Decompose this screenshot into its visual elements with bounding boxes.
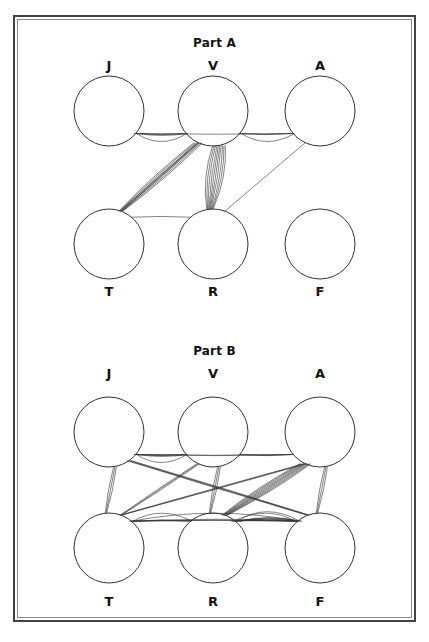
node-j-circle (74, 397, 144, 467)
node-r-circle (178, 513, 248, 583)
node-f-label: F (316, 594, 325, 609)
edge-a-r (226, 464, 307, 515)
node-v-label: V (208, 58, 218, 73)
node-t-label: T (105, 594, 114, 609)
edge-t-v (120, 143, 198, 211)
node-f-circle (285, 209, 355, 279)
node-v-label: V (208, 366, 218, 381)
node-f-label: F (316, 284, 325, 299)
node-r-circle (178, 209, 248, 279)
node-v-circle (178, 76, 248, 146)
edge-v-t (121, 464, 198, 515)
edge-v-t (122, 464, 200, 515)
edge-a-r (224, 464, 304, 515)
node-a-circle (285, 76, 355, 146)
node-t-circle (74, 513, 144, 583)
node-r-label: R (208, 284, 218, 299)
edge-t-r (131, 216, 190, 217)
network-diagram: JVATRFJVATRF (0, 0, 429, 642)
edge-a-t (122, 464, 307, 515)
edge-a-f (318, 466, 328, 513)
edge-a-r (225, 143, 305, 211)
node-j-label: J (106, 366, 112, 381)
node-j-label: J (106, 58, 112, 73)
node-v-circle (178, 397, 248, 467)
node-a-label: A (315, 58, 325, 73)
edge-v-t (121, 143, 198, 211)
edge-v-t (120, 464, 197, 515)
edge-t-v (122, 143, 199, 211)
edge-v-r (211, 145, 221, 209)
edges (105, 454, 327, 521)
node-t-label: T (105, 284, 114, 299)
edge-a-f (317, 466, 326, 513)
node-j-circle (74, 76, 144, 146)
node-a-circle (285, 397, 355, 467)
edge-a-t (121, 464, 305, 515)
node-t-circle (74, 209, 144, 279)
edge-j-t (107, 466, 117, 513)
part-b-graph: JVATRF (74, 366, 355, 609)
node-a-label: A (315, 366, 325, 381)
edge-j-t (106, 466, 115, 513)
edge-a-r (225, 464, 305, 515)
node-r-label: R (208, 594, 218, 609)
part-a-graph: JVATRF (74, 58, 355, 299)
node-f-circle (285, 513, 355, 583)
